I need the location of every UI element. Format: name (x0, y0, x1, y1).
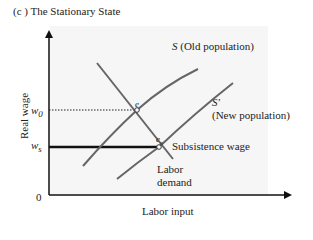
point-es-label: es (156, 133, 163, 149)
labor-demand-label-line1: Labor (157, 163, 183, 175)
supply-old-text: (Old population) (180, 40, 254, 52)
ws-tick-label: ws (31, 139, 42, 155)
supply-new-label: (New population) (212, 109, 290, 121)
y-axis-label: Real wage (18, 86, 30, 146)
x-axis-label: Labor input (142, 205, 194, 217)
subsistence-wage-label: Subsistence wage (172, 140, 250, 152)
supply-old-symbol: S (172, 40, 178, 52)
es-sub: s (160, 139, 163, 147)
point-e-label: e (135, 98, 139, 110)
origin-label: 0 (36, 191, 42, 203)
ws-sub: s (38, 144, 42, 154)
supply-new-symbol: S' (212, 96, 220, 108)
w0-sub: 0 (38, 109, 43, 119)
w0-tick-label: w0 (31, 104, 43, 120)
labor-demand-label-line2: demand (157, 176, 192, 188)
supply-old-label: S (Old population) (172, 40, 254, 52)
